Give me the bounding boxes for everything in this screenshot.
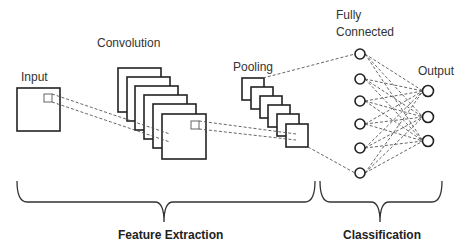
pooling-label: Pooling	[233, 60, 273, 74]
fc-node	[355, 168, 365, 178]
fully-connected-nodes	[355, 49, 365, 178]
cnn-diagram: Input Convolution Pooling Fully Connecte…	[0, 0, 469, 251]
convolution-feature-maps	[118, 68, 206, 159]
pooling-feature-maps	[242, 78, 308, 147]
fc-output-connections	[365, 54, 423, 173]
feature-extraction-brace	[17, 181, 315, 222]
fully-connected-label-line2: Connected	[336, 25, 394, 39]
feature-extraction-label: Feature Extraction	[118, 228, 223, 242]
input-label: Input	[21, 70, 48, 84]
output-node	[423, 86, 434, 97]
output-label: Output	[418, 64, 455, 78]
output-node	[423, 112, 434, 123]
convolution-label: Convolution	[97, 36, 160, 50]
fc-node	[355, 74, 365, 84]
fully-connected-label-line1: Fully	[336, 8, 361, 22]
classification-brace	[320, 181, 442, 222]
fc-node	[355, 119, 365, 129]
fc-node	[355, 143, 365, 153]
classification-label: Classification	[343, 228, 421, 242]
output-node	[423, 136, 434, 147]
output-nodes	[423, 86, 434, 147]
fc-node	[355, 49, 365, 59]
fc-node	[355, 96, 365, 106]
